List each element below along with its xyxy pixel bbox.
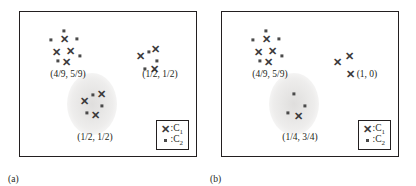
cluster-label-middle: (1/4, 3/4) [282, 132, 317, 142]
cluster-label-right: (1, 0) [357, 69, 378, 79]
data-point-c1: ✕ [264, 57, 273, 68]
data-point-c1: ✕ [52, 47, 61, 58]
cluster-ellipse-middle [67, 73, 117, 135]
data-point-c2 [277, 37, 280, 40]
data-point-c2 [78, 54, 81, 57]
square-marker-icon [363, 139, 373, 142]
data-point-c2 [286, 111, 289, 114]
cluster-label-top-left: (4/9, 5/9) [252, 69, 287, 79]
cluster-ellipse-middle [269, 73, 319, 135]
plot-frame-a: ✕✕✕✕✕✕✕✕✕✕(4/9, 5/9)(1/2, 1/2)(1/2, 1/2)… [19, 11, 197, 157]
data-point-c1: ✕ [345, 51, 354, 62]
data-point-c1: ✕ [97, 89, 106, 100]
panel-a: ✕✕✕✕✕✕✕✕✕✕(4/9, 5/9)(1/2, 1/2)(1/2, 1/2)… [0, 0, 208, 186]
data-point-c1: ✕ [80, 96, 89, 107]
cluster-label-middle: (1/2, 1/2) [77, 132, 112, 142]
data-point-c2 [258, 59, 261, 62]
panel-b: ✕✕✕✕✕✕✕✕(4/9, 5/9)(1, 0)(1/4, 3/4) ✕ :C1… [208, 0, 416, 186]
data-point-c2 [292, 92, 295, 95]
data-point-c2 [303, 104, 306, 107]
square-marker-icon [161, 139, 171, 142]
data-point-c2 [49, 38, 52, 41]
panel-caption-a: (a) [8, 174, 19, 184]
data-point-c1: ✕ [254, 47, 263, 58]
legend-b: ✕ :C1 :C2 [358, 120, 391, 150]
legend-label-c2: :C2 [171, 134, 183, 147]
data-point-c2 [56, 59, 59, 62]
figure-container: ✕✕✕✕✕✕✕✕✕✕(4/9, 5/9)(1/2, 1/2)(1/2, 1/2)… [0, 0, 416, 186]
legend-row-c2: :C2 [363, 135, 385, 146]
data-point-c1: ✕ [91, 110, 100, 121]
data-point-c2 [280, 54, 283, 57]
legend-a: ✕ :C1 :C2 [156, 120, 189, 150]
data-point-c1: ✕ [136, 51, 145, 62]
x-marker-icon: ✕ [161, 123, 171, 136]
data-point-c2 [75, 37, 78, 40]
data-point-c1: ✕ [294, 111, 303, 122]
data-point-c2 [85, 111, 88, 114]
plot-frame-b: ✕✕✕✕✕✕✕✕(4/9, 5/9)(1, 0)(1/4, 3/4) ✕ :C1… [221, 11, 399, 157]
data-point-c1: ✕ [151, 44, 160, 55]
data-point-c1: ✕ [60, 34, 69, 45]
data-point-c2 [251, 38, 254, 41]
data-point-c1: ✕ [333, 57, 342, 68]
x-marker-icon: ✕ [363, 123, 373, 136]
data-point-c2 [100, 104, 103, 107]
legend-label-c2: :C2 [373, 134, 385, 147]
data-point-c1: ✕ [346, 69, 355, 80]
data-point-c2 [91, 93, 94, 96]
cluster-label-right: (1/2, 1/2) [142, 69, 177, 79]
data-point-c1: ✕ [62, 57, 71, 68]
cluster-label-top-left: (4/9, 5/9) [50, 69, 85, 79]
legend-row-c2: :C2 [161, 135, 183, 146]
panel-caption-b: (b) [210, 174, 221, 184]
data-point-c1: ✕ [262, 34, 271, 45]
